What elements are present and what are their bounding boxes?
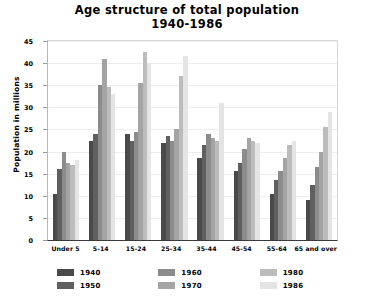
legend-item[interactable]: 1940	[57, 266, 154, 279]
legend-label: 1986	[283, 282, 304, 290]
y-axis-tick-mark	[43, 240, 47, 241]
legend-swatch	[57, 282, 74, 289]
bar	[219, 103, 223, 240]
x-axis-label: 5-14	[83, 245, 118, 257]
x-axis-label: 55-64	[259, 245, 294, 257]
bar-group	[193, 41, 229, 240]
bar	[292, 141, 296, 241]
x-axis-label: 35-44	[189, 245, 224, 257]
bar	[183, 56, 187, 240]
y-axis-tick-mark	[43, 85, 47, 86]
bar	[255, 143, 259, 240]
y-axis-tick-mark	[43, 107, 47, 108]
x-axis-label: 25-34	[154, 245, 189, 257]
bar-group	[229, 41, 265, 240]
bar-group	[84, 41, 120, 240]
y-axis-tick-label: 5	[11, 215, 33, 223]
x-axis-label: 65 and over	[294, 245, 337, 257]
y-axis-tick-mark	[43, 129, 47, 130]
x-axis-label: 45-54	[224, 245, 259, 257]
bar-groups	[48, 41, 337, 240]
y-axis-tick-label: 35	[11, 82, 33, 90]
y-axis-tick-label: 10	[11, 193, 33, 201]
legend-item[interactable]: 1980	[260, 266, 357, 279]
bar	[147, 63, 151, 240]
y-axis-tick-label: 0	[11, 237, 33, 245]
bar-group	[48, 41, 84, 240]
y-axis-tick-mark	[43, 174, 47, 175]
legend-item[interactable]: 1950	[57, 279, 154, 292]
y-axis-tick-label: 25	[11, 126, 33, 134]
x-axis-label: 15-24	[118, 245, 153, 257]
legend-item[interactable]: 1986	[260, 279, 357, 292]
legend-item[interactable]: 1960	[158, 266, 255, 279]
chart-title-line-2: 1940-1986	[0, 17, 374, 31]
x-axis-label: Under 5	[48, 245, 83, 257]
bar	[328, 112, 332, 240]
bar-group	[156, 41, 192, 240]
y-axis-tick-label: 40	[11, 60, 33, 68]
legend-label: 1980	[283, 269, 304, 277]
y-axis-tick-label: 15	[11, 171, 33, 179]
legend-label: 1960	[181, 269, 202, 277]
x-axis-labels: Under 55-1415-2425-3435-4445-5455-6465 a…	[48, 245, 337, 257]
y-axis-tick-mark	[43, 196, 47, 197]
y-axis-tick-label: 20	[11, 149, 33, 157]
y-axis-tick-mark	[43, 218, 47, 219]
legend-label: 1940	[80, 269, 101, 277]
legend-swatch	[158, 282, 175, 289]
y-axis-tick-mark	[43, 63, 47, 64]
legend-label: 1970	[181, 282, 202, 290]
legend-item[interactable]: 1970	[158, 279, 255, 292]
legend-swatch	[260, 269, 277, 276]
legend-label: 1950	[80, 282, 101, 290]
chart-legend: 194019601980195019701986	[57, 266, 357, 292]
bar-group	[120, 41, 156, 240]
bar	[75, 160, 79, 240]
legend-swatch	[57, 269, 74, 276]
chart-title: Age structure of total population 1940-1…	[0, 3, 374, 31]
y-axis-tick-mark	[43, 41, 47, 42]
chart-title-line-1: Age structure of total population	[0, 3, 374, 17]
bar	[111, 94, 115, 240]
y-axis-tick-mark	[43, 152, 47, 153]
bar-group	[265, 41, 301, 240]
bar-group	[301, 41, 337, 240]
y-axis-tick-label: 45	[11, 38, 33, 46]
bar-chart: Age structure of total population 1940-1…	[0, 0, 374, 300]
y-axis-tick-label: 30	[11, 104, 33, 112]
legend-swatch	[260, 282, 277, 289]
legend-swatch	[158, 269, 175, 276]
